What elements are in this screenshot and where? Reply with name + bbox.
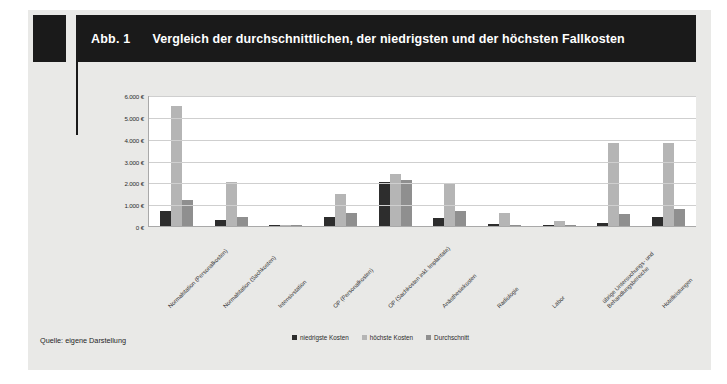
- bar: [543, 225, 554, 226]
- legend-label: höchste Kosten: [370, 334, 413, 341]
- bar: [171, 106, 182, 226]
- y-axis-tick-label: 5.000 €: [118, 114, 144, 121]
- bar: [269, 225, 280, 226]
- bar: [674, 209, 685, 226]
- legend-label: niedrigste Kosten: [300, 334, 349, 341]
- legend-item[interactable]: niedrigste Kosten: [292, 334, 349, 341]
- legend-swatch-icon: [426, 335, 431, 340]
- gridline: [149, 205, 696, 206]
- x-axis-label: OP (Sachkosten inkl. Implantate): [387, 245, 452, 310]
- x-axis-label: Radiologie: [496, 286, 520, 310]
- y-axis-tick-label: 0 €: [118, 224, 144, 231]
- y-axis-tick-label: 6.000 €: [118, 93, 144, 100]
- bar: [488, 224, 499, 226]
- figure-number: Abb. 1: [91, 32, 130, 46]
- bar: [597, 223, 608, 226]
- gridline: [149, 140, 696, 141]
- corner-marker-square: [33, 15, 66, 62]
- gridline: [149, 118, 696, 119]
- x-axis-label: übrige Untersuchungs- undBehandlungsbere…: [601, 251, 660, 310]
- bar: [619, 214, 630, 226]
- legend-item[interactable]: Durchschnitt: [426, 334, 469, 341]
- bar: [237, 217, 248, 226]
- gridline: [149, 162, 696, 163]
- bar: [346, 213, 357, 226]
- page-margin-right: [711, 0, 727, 384]
- bar: [160, 211, 171, 226]
- page-margin-bottom: [0, 370, 727, 384]
- chart-legend: niedrigste Kostenhöchste KostenDurchschn…: [292, 334, 469, 341]
- bar: [215, 220, 226, 226]
- figure-page: Abb. 1 Vergleich der durchschnittlichen,…: [0, 0, 727, 384]
- legend-item[interactable]: höchste Kosten: [362, 334, 413, 341]
- bar: [652, 217, 663, 226]
- bar: [291, 225, 302, 226]
- x-axis-label: Labor: [551, 295, 566, 310]
- x-axis-label: OP (Personalkosten): [332, 267, 375, 310]
- y-axis-tick-label: 3.000 €: [118, 158, 144, 165]
- bar: [390, 174, 401, 226]
- y-axis-tick-label: 2.000 €: [118, 180, 144, 187]
- bar: [499, 213, 510, 226]
- x-axis-label: Intensivstation: [277, 279, 308, 310]
- gridline: [149, 183, 696, 184]
- bar: [455, 211, 466, 226]
- x-axis-label: Normalstation (Personalkosten): [167, 248, 229, 310]
- bar: [608, 143, 619, 226]
- bar: [510, 225, 521, 226]
- x-axis-label: Hotelleistungen: [661, 277, 694, 310]
- bar: [401, 180, 412, 226]
- x-axis-label: Normalstation (Sachkosten): [222, 255, 277, 310]
- gridline: [149, 96, 696, 97]
- legend-swatch-icon: [292, 335, 297, 340]
- bar: [182, 200, 193, 226]
- chart-container: 0 €1.000 €2.000 €3.000 €4.000 €5.000 €6.…: [118, 96, 696, 227]
- legend-swatch-icon: [362, 335, 367, 340]
- figure-header-band: Abb. 1 Vergleich der durchschnittlichen,…: [78, 15, 696, 62]
- x-axis-category-labels: Normalstation (Personalkosten)Normalstat…: [148, 228, 696, 310]
- bar: [280, 225, 291, 226]
- bar: [335, 194, 346, 226]
- bar: [324, 217, 335, 226]
- figure-title: Vergleich der durchschnittlichen, der ni…: [152, 32, 624, 46]
- bar: [663, 143, 674, 226]
- legend-label: Durchschnitt: [434, 334, 469, 341]
- y-axis-tick-label: 4.000 €: [118, 136, 144, 143]
- figure-source: Quelle: eigene Darstellung: [40, 336, 126, 345]
- bar: [565, 225, 576, 226]
- plot-area: [148, 96, 696, 227]
- bar: [554, 221, 565, 226]
- bar: [433, 218, 444, 226]
- x-axis-label: Anästhesiekosten: [441, 273, 478, 310]
- page-margin-left: [0, 0, 28, 384]
- y-axis-tick-label: 1.000 €: [118, 202, 144, 209]
- page-margin-top: [0, 0, 727, 10]
